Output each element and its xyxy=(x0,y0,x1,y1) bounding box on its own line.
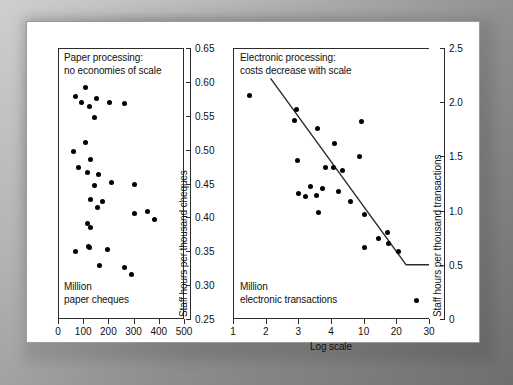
data-point xyxy=(247,93,252,98)
electronic-scatter-points xyxy=(233,48,429,319)
electronic-x-axis-title: Log scale xyxy=(310,341,352,352)
chart-electronic-processing: Electronic processing: costs decrease wi… xyxy=(0,0,513,385)
data-point xyxy=(336,189,341,194)
y-tick-mark xyxy=(440,102,445,103)
x-tick-mark xyxy=(396,319,397,324)
x-tick-mark xyxy=(331,319,332,324)
figure-root: Paper processing: no economies of scale … xyxy=(0,0,513,385)
y-tick-label: 2.5 xyxy=(449,43,463,54)
data-point xyxy=(320,186,325,191)
data-point xyxy=(292,118,297,123)
y-tick-label: 0.5 xyxy=(449,259,463,270)
data-point xyxy=(357,154,362,159)
data-point xyxy=(362,212,367,217)
x-tick-label: 1 xyxy=(230,326,236,337)
data-point xyxy=(376,236,381,241)
data-point xyxy=(323,165,328,170)
data-point xyxy=(348,199,353,204)
y-tick-mark xyxy=(440,48,445,49)
x-tick-label: 2 xyxy=(263,326,269,337)
data-point xyxy=(331,165,336,170)
y-tick-mark xyxy=(440,319,445,320)
data-point xyxy=(359,119,364,124)
data-point xyxy=(315,126,320,131)
x-tick-label: 10 xyxy=(358,326,369,337)
data-point xyxy=(294,107,299,112)
data-point xyxy=(308,184,313,189)
data-point xyxy=(314,193,319,198)
data-point xyxy=(296,191,301,196)
data-point xyxy=(362,245,367,250)
y-tick-label: 1.5 xyxy=(449,151,463,162)
data-point xyxy=(332,141,337,146)
x-tick-mark xyxy=(298,319,299,324)
data-point xyxy=(385,230,390,235)
x-tick-label: 30 xyxy=(423,326,434,337)
x-tick-mark xyxy=(429,319,430,324)
y-tick-label: 0 xyxy=(449,314,455,325)
x-tick-label: 3 xyxy=(296,326,302,337)
data-point xyxy=(340,168,345,173)
x-tick-mark xyxy=(364,319,365,324)
x-tick-mark xyxy=(266,319,267,324)
x-tick-label: 20 xyxy=(391,326,402,337)
electronic-y-axis-title: Staff hours per thousand transactions xyxy=(432,155,443,317)
x-tick-label: 4 xyxy=(328,326,334,337)
data-point xyxy=(396,249,401,254)
x-tick-mark xyxy=(233,319,234,324)
data-point xyxy=(303,194,308,199)
data-point xyxy=(414,298,419,303)
electronic-y-axis-line xyxy=(444,48,445,319)
data-point xyxy=(386,241,391,246)
y-tick-label: 2.0 xyxy=(449,97,463,108)
data-point xyxy=(295,158,300,163)
y-tick-label: 1.0 xyxy=(449,205,463,216)
data-point xyxy=(316,210,321,215)
